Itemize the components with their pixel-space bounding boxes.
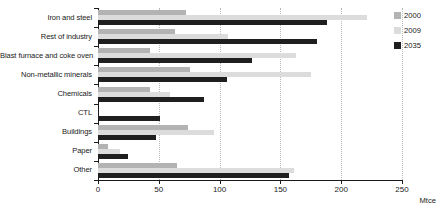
legend-swatch-2009-icon <box>394 27 401 34</box>
legend-label-2000: 2000 <box>404 12 421 20</box>
x-tick-label: 250 <box>382 185 422 194</box>
x-tick-label: 50 <box>139 185 179 194</box>
bar <box>98 97 204 102</box>
x-tick-mark <box>98 180 99 184</box>
plot-area <box>98 8 402 180</box>
bar <box>98 58 252 63</box>
gridline-150 <box>280 8 281 180</box>
bar <box>98 135 156 140</box>
x-axis-line <box>98 180 403 181</box>
x-tick-mark <box>220 180 221 184</box>
legend-item-2009[interactable]: 2009 <box>394 23 442 38</box>
bar <box>98 39 317 44</box>
category-tick <box>94 123 98 124</box>
category-label: Buildings <box>0 128 92 136</box>
category-tick <box>94 84 98 85</box>
legend-swatch-2035-icon <box>394 42 401 49</box>
x-tick-mark <box>402 180 403 184</box>
chart-legend: 2000 2009 2035 <box>394 8 442 53</box>
bar <box>98 20 327 25</box>
category-tick <box>94 180 98 181</box>
bar <box>98 77 227 82</box>
category-label: CTL <box>0 109 92 117</box>
category-label: Paper <box>0 147 92 155</box>
gridline-200 <box>341 8 342 180</box>
category-axis: Iron and steelRest of industryBlast furn… <box>0 8 96 180</box>
x-tick-label: 0 <box>78 185 118 194</box>
bar <box>98 173 289 178</box>
x-tick-mark <box>159 180 160 184</box>
x-tick-label: 150 <box>260 185 300 194</box>
legend-label-2009: 2009 <box>404 27 421 35</box>
x-tick-mark <box>341 180 342 184</box>
x-tick-label: 200 <box>321 185 361 194</box>
x-axis-unit-label: Mtce <box>420 196 436 205</box>
category-label: Iron and steel <box>0 14 92 22</box>
legend-swatch-2000-icon <box>394 12 401 19</box>
category-label: Rest of industry <box>0 33 92 41</box>
category-tick <box>94 27 98 28</box>
category-label: Blast furnace and coke oven <box>0 52 92 60</box>
category-label: Other <box>0 166 92 174</box>
category-tick <box>94 142 98 143</box>
x-tick-label: 100 <box>200 185 240 194</box>
category-tick <box>94 65 98 66</box>
legend-label-2035: 2035 <box>404 42 421 50</box>
legend-item-2035[interactable]: 2035 <box>394 38 442 53</box>
category-label: Non-metallic minerals <box>0 71 92 79</box>
bar <box>98 116 160 121</box>
x-tick-mark <box>280 180 281 184</box>
category-tick <box>94 161 98 162</box>
category-label: Chemicals <box>0 90 92 98</box>
category-tick <box>94 8 98 9</box>
category-tick <box>94 104 98 105</box>
bar <box>98 154 128 159</box>
bar-chart: Iron and steelRest of industryBlast furn… <box>0 0 442 210</box>
legend-item-2000[interactable]: 2000 <box>394 8 442 23</box>
category-tick <box>94 46 98 47</box>
